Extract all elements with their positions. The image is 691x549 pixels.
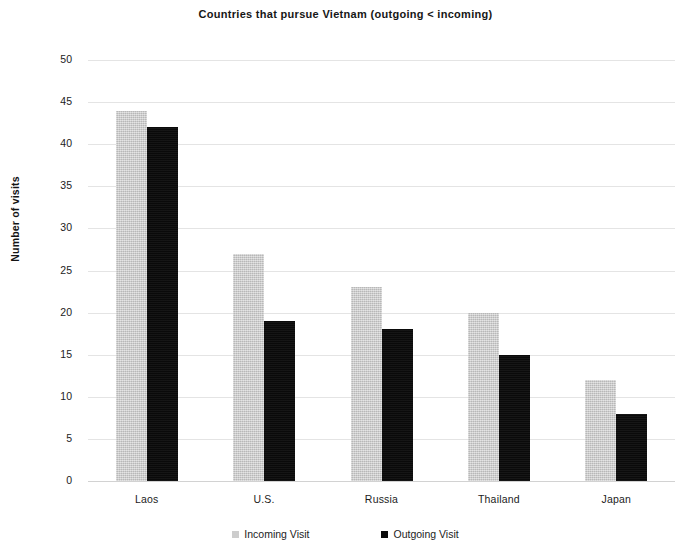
- bar-group: [351, 60, 413, 481]
- y-axis-tick-label: 35: [36, 179, 72, 191]
- y-axis-tick-label: 45: [36, 95, 72, 107]
- bar-outgoing[interactable]: [147, 127, 178, 481]
- legend-item[interactable]: Outgoing Visit: [381, 528, 458, 540]
- bar-incoming[interactable]: [116, 111, 147, 481]
- y-axis-tick-label: 15: [36, 348, 72, 360]
- square-swatch-icon: [232, 531, 239, 538]
- bar-outgoing[interactable]: [382, 329, 413, 481]
- y-axis-tick-label: 10: [36, 390, 72, 402]
- bar-incoming[interactable]: [233, 254, 264, 481]
- y-axis-tick-label: 30: [36, 221, 72, 233]
- y-axis-tick-label: 5: [36, 432, 72, 444]
- bar-group: [233, 60, 295, 481]
- bar-group: [585, 60, 647, 481]
- y-axis-title: Number of visits: [9, 159, 21, 279]
- bar-incoming[interactable]: [585, 380, 616, 481]
- chart-title: Countries that pursue Vietnam (outgoing …: [0, 8, 691, 20]
- x-axis-tick-label: Laos: [87, 493, 207, 505]
- legend-item-label: Outgoing Visit: [393, 528, 458, 540]
- bar-group: [468, 60, 530, 481]
- gridline: [88, 481, 675, 482]
- chart-legend: Incoming VisitOutgoing Visit: [0, 528, 691, 540]
- x-axis-tick-label: Russia: [322, 493, 442, 505]
- y-axis-tick-label: 20: [36, 306, 72, 318]
- y-axis-tick-label: 40: [36, 137, 72, 149]
- y-axis-tick-label: 0: [36, 474, 72, 486]
- x-axis-tick-label: U.S.: [204, 493, 324, 505]
- bar-group: [116, 60, 178, 481]
- square-swatch-icon: [381, 531, 388, 538]
- bar-outgoing[interactable]: [264, 321, 295, 481]
- x-axis-tick-label: Japan: [556, 493, 676, 505]
- bar-outgoing[interactable]: [499, 355, 530, 481]
- y-axis-tick-label: 50: [36, 53, 72, 65]
- bar-outgoing[interactable]: [616, 414, 647, 481]
- bar-chart: Countries that pursue Vietnam (outgoing …: [0, 0, 691, 549]
- y-axis-tick-label: 25: [36, 264, 72, 276]
- legend-item[interactable]: Incoming Visit: [232, 528, 309, 540]
- x-axis-tick-label: Thailand: [439, 493, 559, 505]
- plot-area: 05101520253035404550: [88, 60, 675, 481]
- bar-incoming[interactable]: [351, 287, 382, 481]
- legend-item-label: Incoming Visit: [244, 528, 309, 540]
- bar-incoming[interactable]: [468, 313, 499, 481]
